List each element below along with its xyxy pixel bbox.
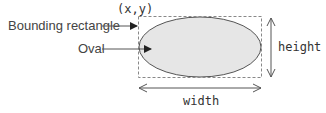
height-label: height xyxy=(278,40,321,54)
origin-label: (x,y) xyxy=(117,2,153,16)
width-label: width xyxy=(183,94,219,108)
oval-bounding-diagram: (x,y) Bounding rectangle Oval height wid… xyxy=(0,0,326,113)
oval-shape xyxy=(139,17,261,77)
oval-label: Oval xyxy=(78,41,105,56)
